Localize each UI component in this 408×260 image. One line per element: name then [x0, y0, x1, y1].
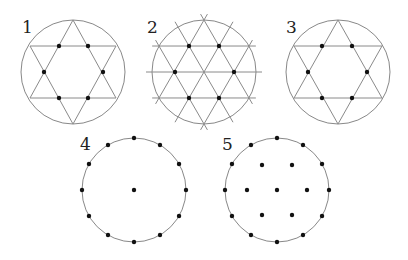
- grid-line: [73, 46, 116, 124]
- diagram-canvas: 1 2 3 4 5: [0, 0, 408, 260]
- point: [350, 96, 354, 100]
- point: [87, 214, 91, 218]
- point: [106, 143, 110, 147]
- figure-2-triangular-lattice: 2: [146, 14, 262, 130]
- point: [132, 240, 136, 244]
- figure-label: 1: [22, 17, 33, 37]
- grid-line: [156, 14, 208, 104]
- point: [173, 70, 177, 74]
- point: [86, 96, 90, 100]
- figure-label: 2: [147, 17, 158, 37]
- grid-line: [30, 46, 73, 124]
- point: [42, 70, 46, 74]
- boundary-circle: [21, 20, 125, 124]
- point: [260, 163, 264, 167]
- figure-3-star-of-david: 3: [286, 17, 390, 124]
- boundary-circle: [286, 20, 390, 124]
- grid-line: [73, 20, 116, 98]
- point: [290, 163, 294, 167]
- grid-line: [294, 20, 338, 98]
- point: [187, 96, 191, 100]
- point: [301, 233, 305, 237]
- point: [306, 70, 310, 74]
- point: [260, 213, 264, 217]
- point: [223, 188, 227, 192]
- figure-label: 5: [222, 134, 233, 154]
- point: [217, 96, 221, 100]
- grid-line: [294, 46, 338, 124]
- point: [320, 214, 324, 218]
- point: [184, 188, 188, 192]
- grid-line: [338, 20, 382, 98]
- point: [320, 162, 324, 166]
- point: [249, 143, 253, 147]
- point: [86, 44, 90, 48]
- point: [230, 214, 234, 218]
- point: [327, 188, 331, 192]
- point: [232, 70, 236, 74]
- point: [158, 233, 162, 237]
- point: [101, 70, 105, 74]
- grid-line: [338, 46, 382, 124]
- point: [320, 96, 324, 100]
- point: [80, 188, 84, 192]
- point: [132, 136, 136, 140]
- point: [57, 96, 61, 100]
- point: [57, 44, 61, 48]
- grid-line: [201, 40, 253, 130]
- point: [275, 240, 279, 244]
- point: [275, 136, 279, 140]
- point: [230, 162, 234, 166]
- point: [132, 188, 136, 192]
- point: [290, 213, 294, 217]
- point: [365, 70, 369, 74]
- grid-line: [156, 40, 208, 130]
- point: [187, 44, 191, 48]
- point: [106, 233, 110, 237]
- figure-4-circle-points: 4: [80, 134, 188, 244]
- point: [350, 44, 354, 48]
- point: [245, 188, 249, 192]
- point: [177, 162, 181, 166]
- figure-5-circle-hexagon-points: 5: [222, 134, 331, 244]
- figure-label: 4: [80, 134, 91, 154]
- point: [301, 143, 305, 147]
- point: [158, 143, 162, 147]
- figure-1-star-of-david: 1: [21, 17, 125, 124]
- grid-line: [201, 14, 253, 104]
- figure-label: 3: [286, 17, 297, 37]
- point: [249, 233, 253, 237]
- point: [320, 44, 324, 48]
- point: [275, 188, 279, 192]
- point: [177, 214, 181, 218]
- grid-line: [30, 20, 73, 98]
- point: [87, 162, 91, 166]
- point: [217, 44, 221, 48]
- point: [305, 188, 309, 192]
